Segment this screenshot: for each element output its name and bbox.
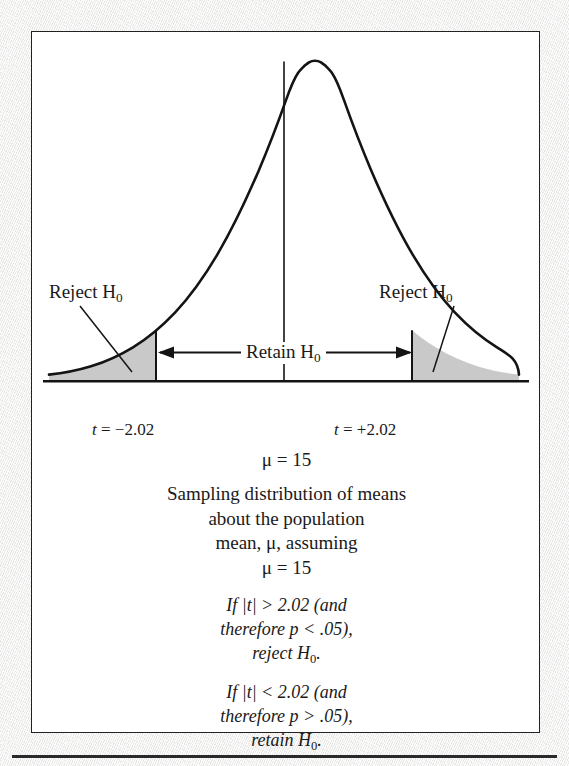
- retain-sub: 0: [314, 350, 321, 365]
- reject-right-sub: 0: [446, 281, 453, 302]
- tick-label-positive: t = +2.02: [334, 421, 396, 438]
- figure-frame: Reject H0 Reject H0 Retain H0 t = −2.02 …: [31, 31, 540, 733]
- page-bottom-rule: [12, 755, 557, 758]
- caption-line-4: μ = 15: [32, 556, 541, 581]
- reject-label-right: Reject H0: [379, 282, 453, 304]
- caption-mean-prefix: mean,: [215, 532, 266, 553]
- decision-rule-retain: If |t| < 2.02 (and therefore p > .05), r…: [32, 681, 541, 754]
- right-rejection-region: [412, 330, 519, 381]
- mu-symbol: μ: [262, 449, 272, 470]
- caption-line-3: mean, μ, assuming: [32, 531, 541, 556]
- caption-mu-symbol-2: μ: [262, 557, 272, 578]
- rule-retain-period: .: [317, 730, 322, 750]
- mu-value: = 15: [272, 449, 311, 470]
- reject-left-text: Reject H: [49, 281, 116, 302]
- rule-reject-line-2: therefore p < .05),: [32, 618, 541, 642]
- tick-label-negative: t = −2.02: [92, 421, 154, 438]
- caption-mu-symbol: μ: [266, 532, 276, 553]
- population-mean-label: μ = 15: [32, 449, 541, 471]
- rule-retain-line-1: If |t| < 2.02 (and: [32, 681, 541, 705]
- rule-retain-line-3: retain H0.: [32, 729, 541, 754]
- reject-left-sub: 0: [116, 281, 123, 302]
- figure-caption: Sampling distribution of means about the…: [32, 482, 541, 581]
- decision-rules: If |t| > 2.02 (and therefore p < .05), r…: [32, 594, 541, 754]
- rule-retain-action: retain H: [251, 730, 311, 750]
- rule-retain-line-2: therefore p > .05),: [32, 705, 541, 729]
- retain-text: Retain H: [246, 341, 314, 362]
- decision-rule-reject: If |t| > 2.02 (and therefore p < .05), r…: [32, 594, 541, 667]
- caption-line-2: about the population: [32, 507, 541, 532]
- rule-reject-action: reject H: [252, 643, 310, 663]
- caption-mean-suffix: , assuming: [276, 532, 357, 553]
- retain-label: Retain H0: [241, 342, 326, 364]
- caption-line-1: Sampling distribution of means: [32, 482, 541, 507]
- t-value-positive: = +2.02: [339, 420, 396, 439]
- reject-right-text: Reject H: [379, 281, 446, 302]
- caption-mu-value: = 15: [272, 557, 311, 578]
- rule-reject-line-3: reject H0.: [32, 642, 541, 667]
- t-value-negative: = −2.02: [97, 420, 154, 439]
- reject-label-left: Reject H0: [49, 282, 123, 304]
- rule-reject-line-1: If |t| > 2.02 (and: [32, 594, 541, 618]
- rule-reject-period: .: [316, 643, 321, 663]
